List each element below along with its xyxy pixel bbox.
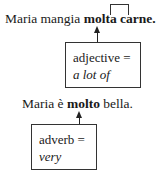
box-meaning: a lot of — [73, 66, 134, 83]
arrow-up-icon — [97, 32, 98, 42]
adjective-definition-box: adjective = a lot of — [65, 42, 141, 88]
sentence-adverb-example: Maria è molto bella. — [22, 97, 133, 111]
box-label: adjective = — [73, 49, 134, 66]
highlight-molto: molto — [67, 96, 100, 111]
sentence-prefix: Maria è — [22, 96, 67, 111]
sentence-prefix: Maria mangia — [5, 11, 84, 26]
arrow-up-icon — [79, 117, 80, 124]
agreement-bracket — [110, 4, 129, 15]
sentence-adjective-example: Maria mangia molta carne. — [5, 12, 156, 26]
box-label: adverb = — [39, 131, 90, 148]
sentence-suffix: bella. — [100, 96, 133, 111]
adverb-definition-box: adverb = very — [31, 124, 97, 170]
box-meaning: very — [39, 148, 90, 165]
